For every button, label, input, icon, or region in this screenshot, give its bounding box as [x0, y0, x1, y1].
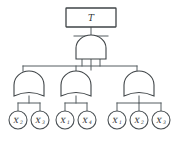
basic-event-4-label: X — [81, 115, 88, 124]
basic-event-2-subscript: 3 — [42, 120, 45, 125]
basic-event-3: X 1 — [56, 111, 74, 129]
basic-event-group: X 2 X 3 X 1 X 4 X 1 — [9, 111, 170, 129]
or-gate-right — [124, 71, 154, 96]
basic-event-7: X 3 — [152, 111, 170, 129]
basic-event-5-label: X — [111, 115, 118, 124]
basic-event-4: X 4 — [78, 111, 96, 129]
or-gate-left-shape — [14, 71, 44, 96]
basic-event-1: X 2 — [9, 111, 27, 129]
basic-event-3-subscript: 1 — [67, 120, 70, 125]
basic-event-1-label: X — [12, 115, 19, 124]
basic-event-3-label: X — [59, 115, 66, 124]
basic-event-5: X 1 — [108, 111, 126, 129]
basic-event-1-subscript: 2 — [19, 120, 23, 125]
top-event-label: T — [88, 13, 95, 23]
basic-event-2-label: X — [34, 115, 41, 124]
fault-tree-diagram: T X 2 X 3 — [0, 0, 182, 141]
basic-event-6-label: X — [133, 115, 140, 124]
basic-event-6-subscript: 2 — [140, 120, 144, 125]
basic-event-5-subscript: 1 — [119, 120, 122, 125]
and-gate — [76, 35, 106, 59]
basic-event-7-subscript: 3 — [163, 120, 166, 125]
basic-event-4-subscript: 4 — [88, 120, 92, 125]
basic-event-2: X 3 — [31, 111, 49, 129]
basic-event-7-label: X — [155, 115, 162, 124]
basic-event-6: X 2 — [130, 111, 148, 129]
or-gate-left — [14, 71, 44, 96]
or-gate-middle-shape — [61, 71, 91, 96]
or-gate-middle — [61, 71, 91, 96]
or-gate-right-shape — [124, 71, 154, 96]
and-gate-shape — [76, 35, 106, 59]
top-event-node: T — [66, 8, 116, 27]
